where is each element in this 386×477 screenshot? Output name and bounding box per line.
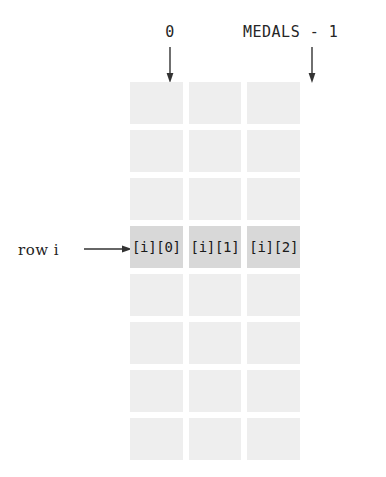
array-cell-labeled: [i][2] (247, 226, 300, 268)
row-label: row i (18, 241, 59, 259)
array-cell (130, 322, 183, 364)
array-cell-labeled: [i][1] (189, 226, 242, 268)
array-cell (130, 130, 183, 172)
array-cell (130, 274, 183, 316)
array-cell (247, 274, 300, 316)
down-arrow-icon-last-column (306, 47, 318, 83)
array-cell (189, 418, 242, 460)
array-cell (130, 418, 183, 460)
array-row-diagram: 0 MEDALS - 1 row i [i][0][i][1][i][2] (0, 0, 386, 477)
array-cell-labeled: [i][0] (130, 226, 183, 268)
array-cell (189, 82, 242, 124)
array-cell (189, 178, 242, 220)
array-grid: [i][0][i][1][i][2] (130, 82, 300, 460)
right-arrow-icon-row-pointer (84, 243, 132, 255)
column-label-last: MEDALS - 1 (243, 23, 383, 41)
array-cell (247, 370, 300, 412)
array-cell (189, 130, 242, 172)
array-cell (247, 130, 300, 172)
array-cell (130, 178, 183, 220)
down-arrow-icon-first-column (164, 47, 176, 83)
column-label-first: 0 (155, 23, 185, 41)
array-cell (189, 370, 242, 412)
array-cell (247, 322, 300, 364)
array-cell (247, 82, 300, 124)
array-cell (130, 370, 183, 412)
array-cell (189, 322, 242, 364)
array-cell (247, 418, 300, 460)
array-cell (189, 274, 242, 316)
array-cell (247, 178, 300, 220)
array-cell (130, 82, 183, 124)
